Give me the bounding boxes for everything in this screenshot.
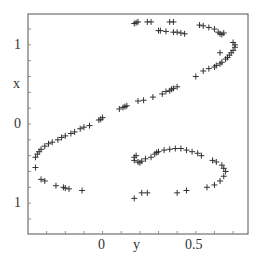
y-tick-label-top: 1 bbox=[14, 38, 21, 52]
plus-marker bbox=[66, 186, 72, 192]
plus-marker bbox=[174, 190, 180, 196]
plus-marker bbox=[38, 176, 44, 182]
plus-marker bbox=[148, 154, 154, 160]
plus-marker bbox=[144, 190, 150, 196]
plus-marker bbox=[161, 147, 167, 153]
plus-marker bbox=[200, 23, 206, 29]
plus-marker bbox=[174, 84, 180, 90]
plus-marker bbox=[174, 29, 180, 35]
y-tick-label-bottom: 1 bbox=[14, 196, 21, 210]
plus-marker bbox=[182, 31, 188, 37]
plus-marker bbox=[77, 126, 83, 132]
plus-marker bbox=[211, 26, 217, 32]
plus-marker bbox=[42, 178, 48, 184]
plus-marker bbox=[193, 74, 199, 80]
plus-marker bbox=[200, 68, 206, 74]
plus-marker bbox=[141, 97, 147, 103]
plus-marker bbox=[170, 19, 176, 25]
plus-marker bbox=[68, 130, 74, 136]
plus-marker bbox=[81, 124, 87, 130]
plus-marker bbox=[213, 159, 219, 165]
plus-marker bbox=[72, 129, 78, 135]
plus-marker bbox=[116, 106, 122, 112]
plus-marker bbox=[150, 94, 156, 100]
plus-marker bbox=[79, 187, 85, 193]
x-axis-label: y bbox=[133, 238, 140, 252]
plus-marker bbox=[131, 195, 137, 201]
y-tick-label-middle: 0 bbox=[14, 117, 21, 131]
plus-marker bbox=[87, 123, 93, 129]
plus-marker bbox=[178, 30, 184, 36]
plus-marker bbox=[178, 146, 184, 152]
data-points bbox=[32, 19, 237, 201]
plus-marker bbox=[183, 147, 189, 153]
plus-marker bbox=[167, 146, 173, 152]
plus-marker bbox=[32, 165, 38, 171]
plus-marker bbox=[183, 187, 189, 193]
x-tick-label-zero: 0 bbox=[98, 238, 105, 252]
plus-marker bbox=[148, 19, 154, 25]
plus-marker bbox=[189, 149, 195, 155]
plus-marker bbox=[172, 146, 178, 152]
plus-marker bbox=[139, 190, 145, 196]
plus-marker bbox=[217, 50, 223, 56]
x-tick-label-half: 0.5 bbox=[185, 238, 203, 252]
plus-marker bbox=[210, 157, 216, 163]
plot-frame bbox=[28, 14, 248, 234]
y-axis-label: x bbox=[13, 77, 20, 91]
plus-marker bbox=[217, 178, 223, 184]
plus-marker bbox=[163, 28, 169, 34]
scatter-plot bbox=[0, 0, 263, 267]
plus-marker bbox=[197, 22, 203, 28]
plus-marker bbox=[62, 133, 68, 139]
plus-marker bbox=[135, 98, 141, 104]
plus-marker bbox=[53, 183, 59, 189]
plus-marker bbox=[206, 66, 212, 72]
plus-marker bbox=[206, 24, 212, 30]
plus-marker bbox=[204, 184, 210, 190]
plus-marker bbox=[49, 139, 55, 145]
plus-marker bbox=[211, 182, 217, 188]
